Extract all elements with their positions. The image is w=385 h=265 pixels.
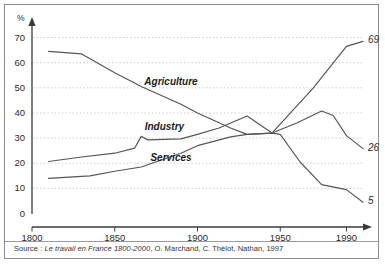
series-lines [49,41,363,202]
x-axis-arrow [363,223,372,230]
end-value-agriculture: 5 [368,195,374,206]
end-value-industry: 26 [368,142,379,153]
end-value-services: 69 [368,34,379,45]
y-axis-tick-label: 40 [5,107,25,118]
y-axis-tick-label: 0 [5,208,25,219]
y-axis-tick-label: 10 [5,182,25,193]
source-divider [5,241,378,242]
series-label-industry: Industry [145,121,184,132]
y-axis-tick-label: 50 [5,82,25,93]
figure-container: 010203040506070 18001850190019501990 % A… [0,0,385,265]
source-citation: Source : Le travail en France 1800-2000,… [14,244,374,253]
series-label-services: Services [150,152,191,163]
y-axis-tick-label: 30 [5,132,25,143]
series-line-industry [49,111,363,162]
series-label-agriculture: Agriculture [144,76,197,87]
y-axis-tick-label: 20 [5,157,25,168]
y-axis-tick-label: 60 [5,57,25,68]
source-prefix: Source : [14,244,44,253]
y-axis-tick-label: 70 [5,32,25,43]
gridlines [33,38,362,214]
line-chart [0,0,385,265]
x-axis-ticks [32,227,346,232]
axes [28,17,372,231]
y-axis-arrow [28,17,35,26]
series-line-agriculture [49,51,363,202]
source-rest: , O. Marchand, C. Thélot, Nathan, 1997 [150,244,283,253]
y-axis-unit-label: % [17,13,25,23]
source-title: Le travail en France 1800-2000 [44,244,150,253]
